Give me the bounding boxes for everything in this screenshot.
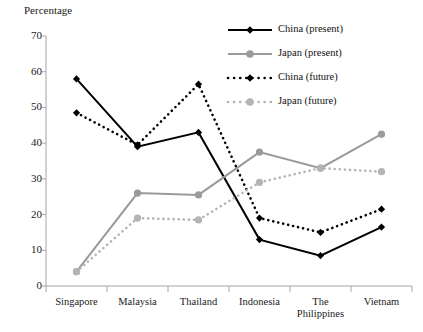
x-axis-tick-labels: SingaporeMalaysiaThailandIndonesiaThe Ph… bbox=[0, 0, 423, 332]
line-chart: Percentage 010203040506070 SingaporeMala… bbox=[0, 0, 423, 332]
x-tick-label: The Philippines bbox=[290, 296, 351, 320]
x-tick-label: Thailand bbox=[168, 296, 229, 308]
x-tick-label: Singapore bbox=[46, 296, 107, 308]
legend-item-label: Japan (future) bbox=[278, 95, 337, 107]
x-tick-label: Indonesia bbox=[229, 296, 290, 308]
x-tick-label: Vietnam bbox=[351, 296, 412, 308]
legend-item-label: China (present) bbox=[278, 23, 343, 35]
legend-item-label: Japan (present) bbox=[278, 47, 342, 59]
x-tick-label: Malaysia bbox=[107, 296, 168, 308]
legend-item-label: China (future) bbox=[278, 71, 338, 83]
